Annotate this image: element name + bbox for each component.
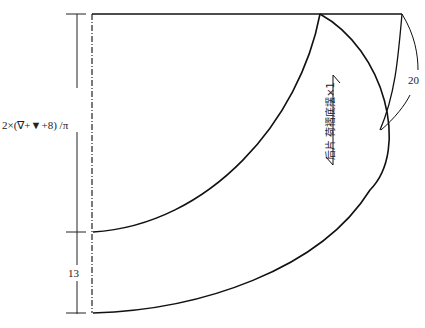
pattern-drawing xyxy=(0,0,425,328)
leader-20 xyxy=(381,95,410,130)
seam-allowance-label: 20 xyxy=(408,74,419,86)
outer-arc xyxy=(93,14,389,313)
leader-20-top xyxy=(402,14,418,70)
radius-dimension-label: 2×(∇+▼+8) /π xyxy=(2,117,68,134)
piece-label: 后片 荷褶底摆×1 xyxy=(322,82,337,160)
hem-width-label: 13 xyxy=(68,265,79,281)
inner-arc xyxy=(93,14,320,232)
